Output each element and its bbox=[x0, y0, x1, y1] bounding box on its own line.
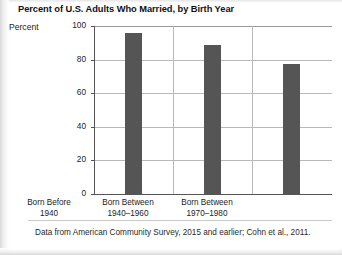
y-tick-label-0: 0 bbox=[56, 189, 86, 198]
category-label-3-line1: Born Between bbox=[161, 198, 253, 209]
category-separator-1 bbox=[173, 26, 174, 194]
source-footnote: Data from American Community Survey, 201… bbox=[35, 228, 335, 237]
chart-title: Percent of U.S. Adults Who Married, by B… bbox=[18, 4, 328, 14]
plot-area bbox=[94, 26, 332, 194]
bar-born-between-1940-1960 bbox=[204, 45, 221, 194]
category-label-3: Born Between 1970–1980 bbox=[161, 198, 253, 219]
bar-born-between-1970-1980 bbox=[283, 64, 300, 194]
category-label-3-line2: 1970–1980 bbox=[161, 209, 253, 220]
y-tick-label-80: 80 bbox=[56, 55, 86, 64]
footnote-divider bbox=[28, 220, 332, 221]
gridline-100 bbox=[94, 26, 332, 27]
chart-figure: Percent of U.S. Adults Who Married, by B… bbox=[0, 0, 342, 255]
chart-panel: Percent of U.S. Adults Who Married, by B… bbox=[9, 2, 338, 250]
x-axis-line bbox=[94, 194, 332, 195]
y-tick-label-40: 40 bbox=[56, 122, 86, 131]
y-tick-label-100: 100 bbox=[56, 21, 86, 30]
y-tick-label-20: 20 bbox=[56, 155, 86, 164]
bar-born-before-1940 bbox=[125, 33, 142, 194]
category-separator-2 bbox=[252, 26, 253, 194]
y-axis-label: Percent bbox=[9, 22, 39, 32]
y-axis-line bbox=[94, 26, 95, 195]
y-tick-label-60: 60 bbox=[56, 88, 86, 97]
